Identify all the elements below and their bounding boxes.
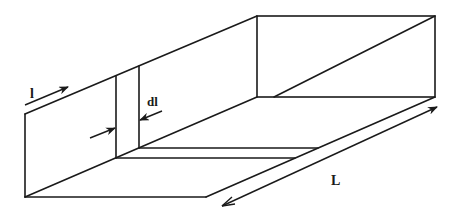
box-diagram-svg: l dl L <box>0 0 459 218</box>
dl-arrow-right-icon <box>140 111 162 120</box>
label-L: L <box>331 173 340 188</box>
inner-floor-edge <box>25 97 257 197</box>
box-diagram: l dl L <box>0 0 459 218</box>
back-face <box>257 16 435 97</box>
L-arrow-icon <box>222 107 437 206</box>
label-l: l <box>30 86 34 101</box>
label-dl: dl <box>147 94 158 109</box>
bottom-right-edge <box>206 97 435 197</box>
dl-arrow-left-icon <box>90 128 115 138</box>
top-edge <box>25 16 257 114</box>
